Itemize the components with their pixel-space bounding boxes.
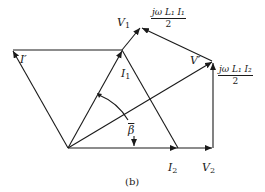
v-prime-phasor bbox=[68, 62, 212, 148]
label-drop2: jω L₁ I₂ 2 bbox=[218, 65, 253, 86]
label-i1-sub: 1 bbox=[125, 72, 130, 81]
label-i2: I2 bbox=[168, 162, 177, 175]
label-i1: I1 bbox=[121, 68, 130, 81]
figure-caption: (b) bbox=[125, 176, 139, 187]
phasor-diagram bbox=[0, 0, 265, 192]
label-drop1: jω L₁ I₁ 2 bbox=[151, 8, 186, 29]
label-beta: β bbox=[128, 125, 134, 136]
drop1-denominator: 2 bbox=[151, 19, 186, 29]
i1-phasor bbox=[68, 51, 122, 148]
drop1-phasor bbox=[142, 28, 212, 61]
drop2-denominator: 2 bbox=[218, 76, 253, 86]
label-v2-main: V bbox=[202, 161, 210, 174]
label-v1-main: V bbox=[117, 16, 125, 29]
label-i-prime: I′ bbox=[20, 54, 27, 65]
label-i2-sub: 2 bbox=[172, 166, 177, 175]
beta-arc bbox=[99, 95, 128, 120]
drop2-numerator: jω L₁ I₂ bbox=[218, 65, 253, 76]
label-v2-sub: 2 bbox=[210, 166, 215, 175]
label-v-prime: V′ bbox=[190, 55, 200, 66]
drop1-numerator: jω L₁ I₁ bbox=[151, 8, 186, 19]
label-v1: V1 bbox=[117, 17, 130, 30]
label-v1-sub: 1 bbox=[125, 21, 130, 30]
v1-phasor bbox=[122, 28, 140, 50]
label-v2: V2 bbox=[202, 162, 215, 175]
